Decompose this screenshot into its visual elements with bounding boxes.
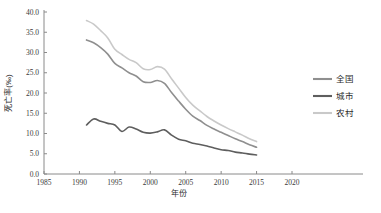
y-axis-tick-label: 40.0: [26, 8, 39, 17]
mortality-rate-line-chart: 0.05.010.015.020.025.030.035.040.0198519…: [0, 0, 381, 213]
y-axis-tick-label: 35.0: [26, 28, 39, 37]
legend-label-城市: 城市: [336, 91, 354, 101]
x-axis-tick-label: 1990: [72, 178, 87, 187]
x-axis-tick-label: 2020: [285, 178, 300, 187]
x-axis-title: 年份: [171, 188, 187, 198]
legend-label-农村: 农村: [336, 108, 354, 118]
x-axis-tick-label: 1995: [107, 178, 122, 187]
legend-label-全国: 全国: [336, 74, 354, 84]
chart-axes: [44, 10, 363, 174]
x-axis-tick-label: 2000: [143, 178, 158, 187]
y-axis-tick-label: 10.0: [26, 129, 39, 138]
series-line-全国: [87, 40, 257, 147]
x-axis-tick-label: 2010: [214, 178, 229, 187]
y-axis-tick-label: 5.0: [30, 149, 40, 158]
x-axis-tick-label: 1985: [37, 178, 52, 187]
x-axis-tick-label: 2005: [178, 178, 193, 187]
x-axis-tick-label: 2015: [249, 178, 264, 187]
chart-container: 0.05.010.015.020.025.030.035.040.0198519…: [0, 0, 381, 213]
y-axis-title: 死亡率(‰): [3, 74, 13, 112]
y-axis-tick-label: 25.0: [26, 68, 39, 77]
y-axis-tick-label: 20.0: [26, 89, 39, 98]
y-axis-tick-label: 15.0: [26, 109, 39, 118]
y-axis-tick-label: 30.0: [26, 48, 39, 57]
